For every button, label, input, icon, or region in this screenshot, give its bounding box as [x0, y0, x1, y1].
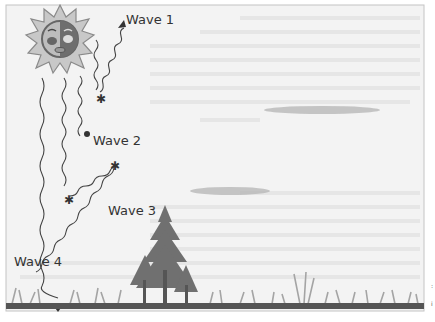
wave1-label: Wave 1 — [126, 12, 174, 27]
cloud-icon — [190, 187, 270, 195]
wave3-label: Wave 3 — [108, 203, 156, 218]
side-mark: : — [431, 282, 433, 289]
cloud-icon — [264, 106, 380, 114]
wave2-dot-icon — [84, 131, 90, 137]
wave4-label: Wave 4 — [14, 254, 62, 269]
wave1-star-icon: ✱ — [96, 92, 106, 106]
sun-waves-diagram: ✱ ✱ ✱ — [0, 0, 435, 322]
wave3-star2-icon: ✱ — [110, 159, 120, 173]
wave2-label: Wave 2 — [93, 133, 141, 148]
wave3-star-icon: ✱ — [64, 193, 74, 207]
side-mark: i — [431, 300, 433, 307]
ground — [6, 303, 424, 309]
